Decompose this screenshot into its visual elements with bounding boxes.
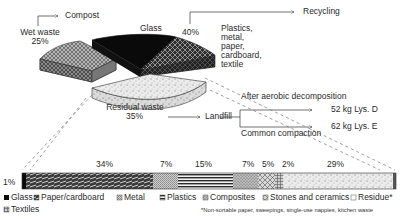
lys-e-label: 62 kg Lys. E <box>331 122 377 132</box>
legend-stones: Stones and ceramics <box>270 193 349 203</box>
legend-residue: Residue* <box>358 193 393 203</box>
compost-label: Compost <box>65 11 99 21</box>
bar-label-composites: 7% <box>242 160 254 170</box>
bar-label-stones: 5% <box>262 160 274 170</box>
common-compaction-label: Common compaction <box>241 129 321 139</box>
legend-metal: Metal <box>124 193 145 203</box>
recycling-label: Recycling <box>303 7 340 17</box>
lys-d-label: 52 kg Lys. D <box>331 105 378 115</box>
after-aerobic-label: After aerobic decomposition <box>241 92 346 102</box>
recycle-item: textile <box>221 60 243 70</box>
bar-label-metal: 7% <box>160 160 172 170</box>
legend-textiles: Textiles <box>11 205 39 215</box>
compost-arrow <box>38 16 58 26</box>
legend-plastics: Plastics <box>167 193 196 203</box>
bar-label-textiles: 2% <box>282 160 294 170</box>
bar-label-glass: 1% <box>3 178 15 188</box>
legend-footnote: *Non-sortable paper, sweepings, single-u… <box>201 206 373 216</box>
recycling-pct: 40% <box>182 28 199 38</box>
legend-composites: Composites <box>210 193 255 203</box>
legend-glass: Glass <box>11 193 33 203</box>
legend-paper: Paper/cardboard <box>41 193 104 203</box>
bar-label-plastics: 15% <box>195 160 212 170</box>
residual-pct: 35% <box>126 112 143 122</box>
landfill-label: Landfill <box>205 112 232 122</box>
wet-waste-pct: 25% <box>20 37 60 47</box>
stacked-bar <box>22 173 396 189</box>
bar-label-paper: 34% <box>96 160 113 170</box>
glass-label: Glass <box>140 24 162 34</box>
bar-label-residue: 29% <box>327 160 344 170</box>
